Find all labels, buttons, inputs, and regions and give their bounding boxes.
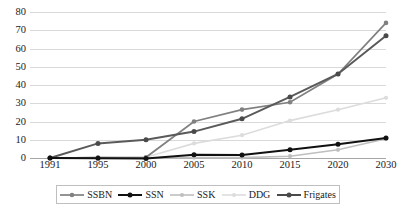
legend-item-frigates[interactable]: Frigates [277, 190, 336, 200]
legend-label-ssbn: SSBN [87, 190, 112, 200]
data-point-frigates [288, 94, 293, 99]
data-point-ddg [192, 141, 196, 145]
data-point-frigates [240, 116, 245, 121]
data-point-ssbn [288, 100, 293, 105]
legend-label-ssk: SSK [197, 190, 215, 200]
y-tick-label: 80 [0, 7, 26, 18]
line-marker-frigates-icon [277, 191, 301, 199]
plot-area [30, 12, 386, 158]
data-point-frigates [144, 137, 149, 142]
series-frigates [48, 33, 389, 160]
data-point-ddg [384, 96, 388, 100]
data-point-ddg [336, 108, 340, 112]
data-point-ssbn [192, 119, 197, 124]
x-tick-label: 1991 [40, 160, 61, 171]
data-point-ssn [192, 152, 197, 157]
data-point-ssbn [240, 107, 245, 112]
data-point-ssk [336, 148, 340, 152]
legend-label-ssn: SSN [145, 190, 163, 200]
y-tick-label: 30 [0, 98, 26, 109]
data-point-frigates [96, 141, 101, 146]
data-point-ssbn [384, 21, 389, 26]
x-tick-label: 2020 [328, 160, 349, 171]
y-tick-label: 50 [0, 62, 26, 73]
line-marker-ssbn-icon [60, 191, 84, 199]
series-line-ddg [50, 98, 386, 158]
data-point-ddg [240, 133, 244, 137]
legend-item-ddg[interactable]: DDG [222, 190, 271, 200]
data-point-ssn [240, 153, 245, 158]
y-tick-label: 10 [0, 135, 26, 146]
data-point-ssk [288, 154, 292, 158]
legend-item-ssk[interactable]: SSK [170, 190, 215, 200]
x-tick-label: 1995 [88, 160, 109, 171]
series-layer [30, 12, 386, 158]
data-point-ssn [384, 136, 389, 141]
x-axis: 1991 1995 2000 2005 2010 2015 2020 2030 [0, 160, 394, 176]
legend-label-ddg: DDG [249, 190, 271, 200]
series-line-ssn [50, 138, 386, 159]
x-tick-label: 2005 [184, 160, 205, 171]
y-tick-label: 60 [0, 44, 26, 55]
data-point-frigates [336, 72, 341, 77]
legend-item-ssn[interactable]: SSN [118, 190, 163, 200]
line-marker-ssn-icon [118, 191, 142, 199]
legend-label-frigates: Frigates [304, 190, 336, 200]
x-tick-label: 2000 [136, 160, 157, 171]
x-tick-label: 2030 [376, 160, 397, 171]
line-marker-ssk-icon [170, 191, 194, 199]
y-tick-label: 20 [0, 117, 26, 128]
data-point-ddg [288, 119, 292, 123]
chart-legend: SSBN SSN SSK DDG [56, 185, 340, 204]
data-point-frigates [384, 33, 389, 38]
legend-item-ssbn[interactable]: SSBN [60, 190, 112, 200]
x-tick-label: 2015 [280, 160, 301, 171]
x-tick-label: 2010 [232, 160, 253, 171]
series-line-ssbn [50, 23, 386, 158]
data-point-ssn [336, 142, 341, 147]
y-tick-label: 70 [0, 25, 26, 36]
data-point-frigates [192, 129, 197, 134]
line-marker-ddg-icon [222, 191, 246, 199]
data-point-ssn [288, 147, 293, 152]
y-tick-label: 40 [0, 80, 26, 91]
